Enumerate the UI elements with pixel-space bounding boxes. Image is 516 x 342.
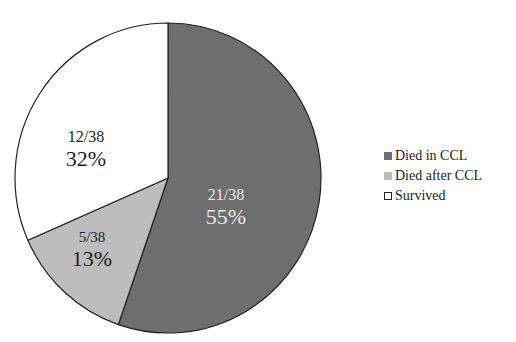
slice-label-died-after-ccl: 5/38 13%: [62, 229, 122, 272]
slice-percent: 55%: [196, 204, 256, 229]
slice-label-survived: 12/38 32%: [56, 128, 116, 172]
slice-fraction: 12/38: [56, 128, 116, 146]
legend: Died in CCL Died after CCL Survived: [384, 146, 482, 206]
slice-fraction: 21/38: [196, 186, 256, 204]
legend-label: Died after CCL: [395, 168, 482, 184]
slice-label-died-in-ccl: 21/38 55%: [196, 186, 256, 230]
legend-item-died-in-ccl: Died in CCL: [384, 146, 482, 166]
legend-item-survived: Survived: [384, 186, 482, 206]
legend-label: Survived: [395, 188, 446, 204]
slice-percent: 32%: [56, 146, 116, 171]
slice-percent: 13%: [62, 246, 122, 271]
legend-swatch-icon: [384, 172, 392, 180]
legend-item-died-after-ccl: Died after CCL: [384, 166, 482, 186]
legend-label: Died in CCL: [395, 148, 467, 164]
legend-swatch-icon: [384, 192, 392, 200]
slice-fraction: 5/38: [62, 229, 122, 246]
legend-swatch-icon: [384, 152, 392, 160]
